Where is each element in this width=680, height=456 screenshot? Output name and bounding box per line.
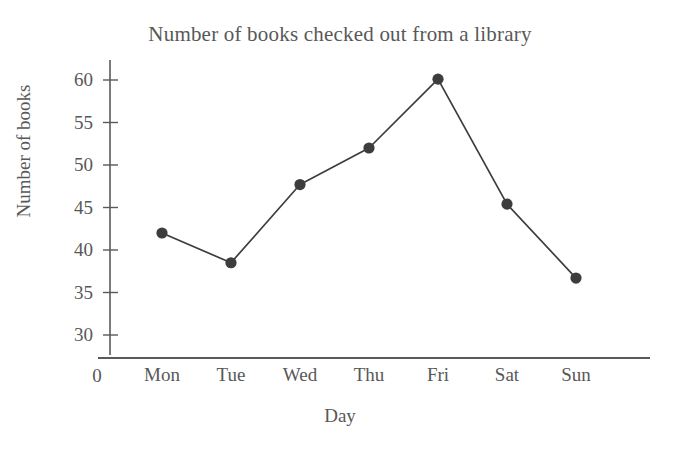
plot-area — [0, 0, 680, 456]
data-point-marker — [432, 74, 443, 85]
data-point-marker — [363, 142, 374, 153]
data-series — [156, 74, 581, 284]
series-line — [162, 79, 576, 278]
data-point-marker — [156, 227, 167, 238]
line-chart: Number of books checked out from a libra… — [0, 0, 680, 456]
data-point-marker — [570, 272, 581, 283]
axes — [98, 60, 650, 358]
data-point-marker — [294, 179, 305, 190]
data-point-marker — [225, 257, 236, 268]
data-point-marker — [501, 199, 512, 210]
